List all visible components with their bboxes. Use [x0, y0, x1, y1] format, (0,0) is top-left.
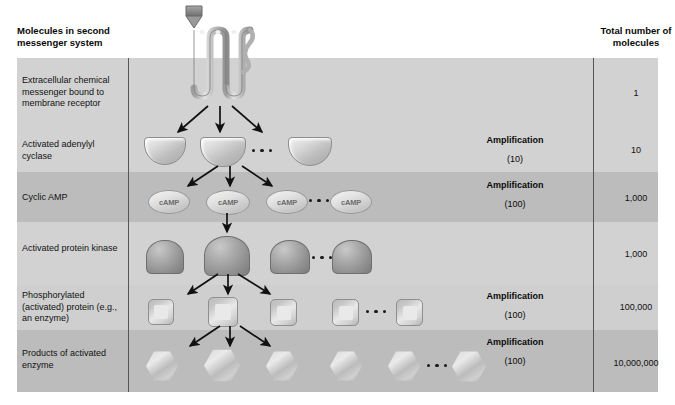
arrows-kinase-to-protein [150, 272, 330, 298]
ellipsis-protein-kinase [312, 256, 332, 259]
ellipsis-products [427, 364, 447, 367]
camp-molecule: cAMP [148, 190, 190, 214]
row-label-products: Products of activated enzyme [22, 348, 126, 371]
ellipsis-adenylyl-cyclase [252, 149, 272, 152]
membrane-receptor [178, 4, 256, 110]
total-receptor: 1 [597, 88, 675, 98]
page-title: Molecules in second messenger system [17, 25, 137, 49]
camp-molecule: cAMP [266, 190, 308, 214]
protein-kinase-molecule [332, 240, 372, 274]
arrow-camp-to-kinase [150, 212, 310, 236]
total-phosphorylated: 100,000 [597, 302, 675, 312]
amplification-label: Amplification [440, 291, 590, 301]
phosphorylated-protein-molecule [396, 299, 423, 326]
row-label-protein-kinase: Activated protein kinase [22, 243, 126, 255]
total-cyclic-amp: 1,000 [597, 193, 675, 203]
divider-left [128, 58, 129, 392]
amplification-label: Amplification [440, 337, 590, 347]
protein-kinase-molecule [204, 236, 250, 276]
total-adenylyl-cyclase: 10 [597, 145, 675, 155]
arrows-receptor-to-cyclase [150, 104, 290, 138]
amplification-phosphorylated: Amplification (100) [440, 291, 590, 320]
total-products: 10,000,000 [597, 358, 675, 368]
amplification-adenylyl-cyclase: Amplification (10) [440, 135, 590, 164]
amplification-factor: (10) [440, 154, 590, 164]
totals-column-title: Total number of molecules [600, 25, 672, 49]
amplification-factor: (100) [440, 199, 590, 209]
phosphorylated-protein-molecule [208, 297, 238, 327]
phosphorylated-protein-molecule [270, 299, 297, 326]
phosphorylated-protein-molecule [148, 299, 174, 325]
diagram-canvas: Molecules in second messenger system Tot… [0, 0, 675, 405]
phosphorylated-protein-molecule [332, 299, 359, 326]
arrows-protein-to-products [150, 324, 340, 350]
total-protein-kinase: 1,000 [597, 249, 675, 259]
divider-right [593, 58, 594, 392]
protein-kinase-molecule [146, 240, 184, 274]
ellipsis-camp [309, 199, 329, 202]
amplification-cyclic-amp: Amplification (100) [440, 180, 590, 209]
row-label-receptor: Extracellular chemical messenger bound t… [22, 75, 126, 110]
amplification-label: Amplification [440, 180, 590, 190]
row-label-adenylyl-cyclase: Activated adenylyl cyclase [22, 139, 126, 162]
ellipsis-phosphorylated-protein [366, 310, 386, 313]
helix-outlines [194, 30, 250, 96]
arrows-cyclase-to-camp [150, 164, 310, 190]
row-label-phosphorylated: Phosphorylated (activated) protein (e.g.… [22, 290, 126, 325]
chemical-messenger-ligand [186, 6, 202, 28]
camp-molecule: cAMP [330, 190, 372, 214]
loop-highlights [199, 30, 236, 34]
row-label-cyclic-amp: Cyclic AMP [22, 192, 126, 204]
amplification-label: Amplification [440, 135, 590, 145]
protein-kinase-molecule [270, 240, 310, 274]
amplification-factor: (100) [440, 310, 590, 320]
